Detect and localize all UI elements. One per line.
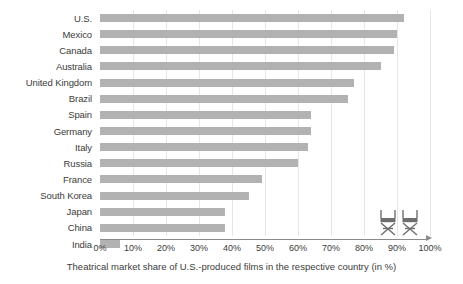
category-label: Japan: [67, 206, 92, 217]
category-label: Canada: [59, 45, 92, 56]
bar-row: [100, 139, 430, 155]
category-label: Australia: [56, 61, 92, 72]
x-tick-label: 20%: [157, 243, 175, 253]
y-axis-category-labels: U.S.MexicoCanadaAustraliaUnited KingdomB…: [0, 10, 96, 236]
bar-row: [100, 26, 430, 42]
category-label: Mexico: [63, 29, 93, 40]
bar-germany: [100, 127, 311, 135]
bar-row: [100, 155, 430, 171]
x-tick-label: 10%: [124, 243, 142, 253]
x-tick-label: 50%: [256, 243, 274, 253]
x-axis-arrow-icon: [426, 235, 432, 241]
x-tick-label: 30%: [190, 243, 208, 253]
decorative-icon-group: [378, 207, 422, 237]
bar-china: [100, 224, 225, 232]
x-axis-title: Theatrical market share of U.S.-produced…: [0, 261, 463, 272]
x-tick-label: 0%: [93, 243, 106, 253]
director-chair-icon-1: [378, 209, 398, 237]
chart-figure: U.S.MexicoCanadaAustraliaUnited KingdomB…: [0, 0, 463, 284]
bar-spain: [100, 111, 311, 119]
x-tick-label: 60%: [289, 243, 307, 253]
category-label-row: Australia: [0, 58, 96, 74]
bar-japan: [100, 208, 225, 216]
category-label-row: United Kingdom: [0, 75, 96, 91]
gridline-100: [430, 10, 431, 236]
bar-row: [100, 107, 430, 123]
plot-area: [100, 10, 430, 236]
x-tick-label: 90%: [388, 243, 406, 253]
category-label: Italy: [75, 142, 92, 153]
category-label: South Korea: [40, 190, 92, 201]
category-label: U.S.: [74, 13, 92, 24]
x-axis-line: [100, 239, 428, 240]
category-label-row: Italy: [0, 139, 96, 155]
bar-row: [100, 188, 430, 204]
bar-row: [100, 75, 430, 91]
bar-u-s-: [100, 14, 404, 22]
bar-row: [100, 123, 430, 139]
category-label-row: Russia: [0, 155, 96, 171]
bar-series: [100, 10, 430, 236]
bar-row: [100, 42, 430, 58]
bar-row: [100, 10, 430, 26]
category-label: Germany: [54, 126, 92, 137]
category-label: Spain: [68, 109, 92, 120]
bar-mexico: [100, 30, 397, 38]
category-label-row: France: [0, 171, 96, 187]
category-label-row: Spain: [0, 107, 96, 123]
category-label: Russia: [64, 158, 92, 169]
category-label-row: Germany: [0, 123, 96, 139]
category-label-row: Japan: [0, 204, 96, 220]
category-label: Brazil: [69, 93, 92, 104]
bar-canada: [100, 46, 394, 54]
category-label-row: South Korea: [0, 188, 96, 204]
category-label-row: Mexico: [0, 26, 96, 42]
bar-south-korea: [100, 192, 249, 200]
bar-row: [100, 58, 430, 74]
category-label: China: [68, 222, 92, 233]
bar-italy: [100, 143, 308, 151]
x-tick-label: 80%: [355, 243, 373, 253]
director-chair-icon-2: [400, 209, 420, 237]
x-tick-label: 70%: [322, 243, 340, 253]
category-label-row: U.S.: [0, 10, 96, 26]
category-label-row: China: [0, 220, 96, 236]
bar-russia: [100, 159, 298, 167]
category-label-row: Brazil: [0, 91, 96, 107]
x-axis-tick-labels: 0%10%20%30%40%50%60%70%80%90%100%: [0, 243, 463, 257]
bar-brazil: [100, 95, 348, 103]
x-tick-label: 100%: [418, 243, 441, 253]
bar-australia: [100, 62, 381, 70]
bar-united-kingdom: [100, 79, 354, 87]
category-label: France: [63, 174, 92, 185]
category-label-row: Canada: [0, 42, 96, 58]
x-tick-label: 40%: [223, 243, 241, 253]
bar-france: [100, 175, 262, 183]
category-label: United Kingdom: [26, 77, 92, 88]
bar-row: [100, 91, 430, 107]
bar-row: [100, 171, 430, 187]
